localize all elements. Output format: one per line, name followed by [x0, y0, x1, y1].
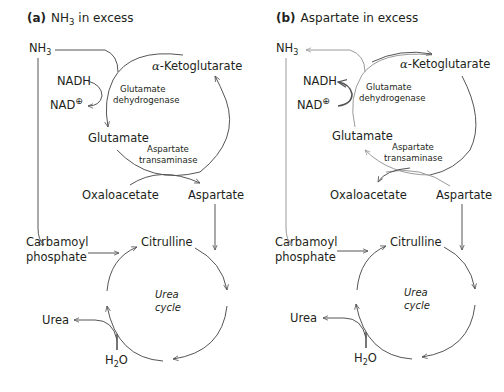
transaminase-to-ketoglutarate-arc [200, 76, 230, 172]
panel-a: (a)NH3 in excess NH3 NADH NAD⊕ α-Ketoglu… [26, 11, 244, 369]
urea-cycle-diagram: (a)NH3 in excess NH3 NADH NAD⊕ α-Ketoglu… [0, 0, 504, 392]
aspartate-label: Aspartate [436, 188, 492, 202]
panel-b-title: (b)Aspartate in excess [276, 11, 418, 25]
urea-output-arrow [74, 320, 117, 340]
carbamoyl-phosphate-label-1: Carbamoyl [26, 235, 88, 249]
urea-cycle-label-2: cycle [155, 302, 181, 313]
alpha-ketoglutarate-label: α-Ketoglutarate [152, 59, 242, 73]
nadh-label: NADH [57, 74, 91, 88]
nad-label: NAD⊕ [50, 96, 83, 112]
panel-b: (b)Aspartate in excess NH3 NADH NAD⊕ α-K… [275, 11, 492, 367]
nh3-input-line [55, 50, 118, 72]
oxaloacetate-to-aspartate-arrow [130, 174, 200, 185]
glutamate-dehydrogenase-label-2: dehydrogenase [359, 93, 426, 103]
nh3-label: NH3 [29, 41, 51, 57]
nh3-to-carbamoyl-arrow [38, 58, 44, 245]
nh3-label: NH3 [276, 41, 298, 57]
carbamoyl-phosphate-label-2: phosphate [26, 250, 87, 264]
citrulline-label: Citrulline [141, 235, 193, 249]
aspartate-transaminase-label-2: transaminase [139, 155, 198, 165]
urea-label: Urea [290, 311, 317, 325]
carbamoyl-phosphate-label-1: Carbamoyl [275, 235, 337, 249]
aspartate-transaminase-label-1: Aspartate [392, 142, 434, 152]
urea-cycle-arc-left-top [107, 247, 137, 291]
urea-cycle-arc-right-top [195, 248, 227, 290]
alpha-ketoglutarate-label: α-Ketoglutarate [400, 57, 490, 71]
aspartate-transaminase-label-1: Aspartate [147, 144, 189, 154]
glutamate-dehydrogenase-label-1: Glutamate [120, 84, 165, 94]
urea-cycle-label-2: cycle [404, 300, 430, 311]
h2o-label: H2O [354, 351, 377, 367]
urea-cycle-arc-left-top [357, 246, 386, 290]
aspartate-transaminase-label-2: transaminase [384, 153, 443, 163]
urea-cycle-label-1: Urea [155, 289, 179, 300]
urea-label: Urea [42, 313, 69, 327]
glutamate-dehydrogenase-label-2: dehydrogenase [113, 95, 180, 105]
h2o-label: H2O [105, 353, 128, 369]
glutamate-label: Glutamate [88, 131, 149, 145]
glutamate-label: Glutamate [332, 129, 393, 143]
nad-label: NAD⊕ [297, 96, 330, 112]
nh3-to-carbamoyl-arrow [286, 58, 292, 245]
urea-cycle-arc-right-bottom [422, 305, 475, 357]
glutamate-dehydrogenase-label-1: Glutamate [366, 82, 411, 92]
urea-output-arrow [323, 318, 366, 338]
urea-cycle-arc-right-top [444, 247, 475, 289]
gdh-to-nh3-arrow [306, 50, 365, 72]
nad-to-nadh-arrow [338, 82, 352, 106]
oxaloacetate-label: Oxaloacetate [82, 188, 159, 202]
carbamoyl-phosphate-label-2: phosphate [275, 250, 336, 264]
panel-a-title: (a)NH3 in excess [27, 11, 134, 27]
nadh-label: NADH [303, 74, 337, 88]
urea-cycle-label-1: Urea [404, 287, 428, 298]
oxaloacetate-label: Oxaloacetate [330, 188, 407, 202]
citrulline-label: Citrulline [390, 235, 442, 249]
urea-cycle-arc-right-bottom [173, 306, 227, 359]
aspartate-label: Aspartate [188, 188, 244, 202]
